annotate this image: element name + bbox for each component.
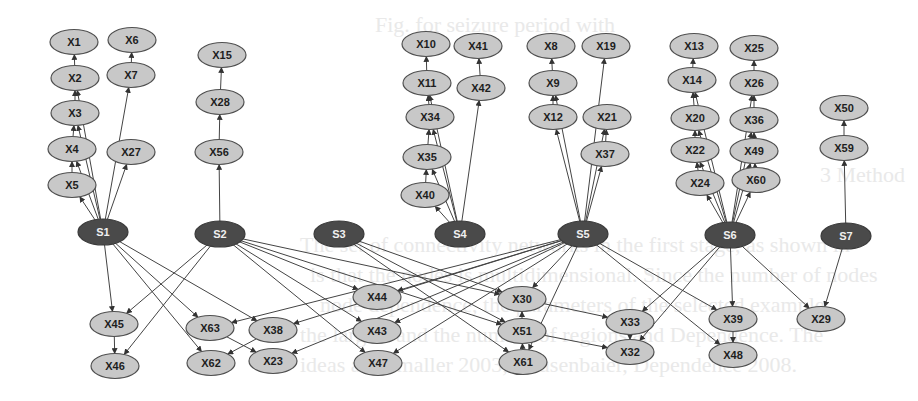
node-label: X23 [263, 355, 283, 367]
node-label: X60 [746, 174, 766, 186]
node-label: X47 [368, 357, 388, 369]
edge-s4-to-x40 [435, 206, 450, 222]
node-label: X9 [546, 77, 559, 89]
node-x6: X6 [108, 28, 156, 53]
node-x22: X22 [671, 138, 719, 163]
node-label: X30 [512, 293, 532, 305]
node-label: X4 [65, 143, 79, 155]
node-x63: X63 [186, 316, 234, 341]
edge-x42-to-x41 [479, 58, 480, 75]
node-x20: X20 [671, 106, 719, 131]
edge-x14-to-x13 [693, 58, 694, 67]
edge-s2-to-x45 [127, 245, 208, 314]
node-x47: X47 [354, 351, 402, 376]
edge-s2-to-x56 [219, 164, 220, 221]
node-label: X2 [68, 72, 81, 84]
edge-x34-to-x11 [428, 95, 429, 104]
edge-s5-to-x43 [395, 242, 565, 322]
node-x27: X27 [107, 140, 155, 165]
node-x11: X11 [403, 71, 451, 96]
edge-s5-to-x37 [586, 166, 601, 221]
node-x5: X5 [48, 173, 96, 198]
node-x56: X56 [195, 140, 243, 165]
edge-x63-to-x23 [227, 337, 256, 352]
node-x51: X51 [498, 319, 546, 344]
edge-x56-to-x28 [219, 114, 220, 139]
node-label: X19 [596, 40, 616, 52]
node-label: X28 [210, 96, 230, 108]
node-s6: S6 [705, 222, 755, 248]
edge-s7-to-x59 [844, 160, 845, 223]
node-x14: X14 [668, 68, 716, 93]
edge-x35-to-x34 [428, 129, 429, 144]
node-label: X43 [367, 325, 387, 337]
node-s5: S5 [558, 221, 608, 247]
node-label: X40 [415, 189, 435, 201]
node-label: X6 [125, 34, 138, 46]
node-label: X29 [811, 313, 831, 325]
node-x23: X23 [249, 349, 297, 374]
node-x3: X3 [51, 101, 99, 126]
edge-x30-to-x33 [544, 304, 608, 318]
node-x42: X42 [457, 76, 505, 101]
edge-x9-to-x8 [552, 58, 553, 70]
node-label: S6 [723, 229, 736, 241]
node-x40: X40 [401, 183, 449, 208]
node-label: X50 [834, 102, 854, 114]
node-x2: X2 [51, 66, 99, 91]
edge-s5-to-x12 [556, 129, 580, 221]
node-label: X25 [744, 42, 764, 54]
node-x41: X41 [454, 34, 502, 59]
edge-x40-to-x35 [426, 169, 427, 182]
node-x7: X7 [107, 63, 155, 88]
edge-x4-to-x3 [73, 125, 74, 136]
node-x59: X59 [820, 136, 868, 161]
node-label: X24 [690, 177, 710, 189]
node-label: X49 [744, 145, 764, 157]
edge-s3-to-x51 [356, 243, 505, 322]
edge-x20-to-x14 [693, 92, 694, 105]
node-x29: X29 [797, 307, 845, 332]
node-label: X42 [471, 82, 491, 94]
node-label: X32 [620, 346, 640, 358]
node-label: X26 [744, 77, 764, 89]
edge-x38-to-x62 [228, 339, 256, 354]
edge-s1-to-x45 [104, 244, 112, 311]
node-x43: X43 [353, 319, 401, 344]
node-x37: X37 [581, 142, 629, 167]
node-x36: X36 [730, 108, 778, 133]
node-label: X36 [744, 114, 764, 126]
directed-graph: S1S2S3S4S5S6S7X1X6X2X7X3X4X27X5X15X28X56… [0, 0, 918, 401]
node-label: X37 [595, 148, 615, 160]
node-label: S5 [576, 228, 589, 240]
node-label: X56 [209, 146, 229, 158]
node-x60: X60 [732, 168, 780, 193]
node-label: S1 [96, 226, 109, 238]
node-x30: X30 [498, 287, 546, 312]
node-label: X62 [201, 357, 221, 369]
node-label: X63 [200, 322, 220, 334]
node-x25: X25 [730, 36, 778, 61]
node-x44: X44 [353, 285, 401, 310]
node-label: X13 [684, 40, 704, 52]
node-x9: X9 [529, 71, 577, 96]
node-x24: X24 [676, 171, 724, 196]
node-s4: S4 [435, 221, 485, 247]
node-label: X51 [512, 325, 532, 337]
node-label: X7 [124, 69, 137, 81]
node-x34: X34 [406, 105, 454, 130]
node-x61: X61 [499, 350, 547, 375]
node-x28: X28 [196, 90, 244, 115]
edge-s6-to-x33 [642, 246, 717, 312]
node-x8: X8 [527, 34, 575, 59]
node-x13: X13 [670, 34, 718, 59]
node-label: X39 [723, 313, 743, 325]
node-x46: X46 [91, 354, 139, 379]
node-label: X27 [121, 146, 141, 158]
node-label: X5 [65, 179, 78, 191]
node-label: S7 [839, 230, 852, 242]
node-label: X41 [468, 40, 488, 52]
node-label: X33 [620, 316, 640, 328]
node-label: X46 [105, 360, 125, 372]
node-label: X14 [682, 74, 702, 86]
